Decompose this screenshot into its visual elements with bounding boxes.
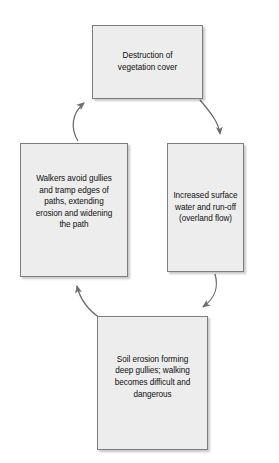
node-increased-surface-water-and-runoff: Increased surface water and run-off (ove… [167, 143, 244, 272]
node-label: Soil erosion forming deep gullies; walki… [110, 354, 196, 401]
node-label: Walkers avoid gullies and tramp edges of… [31, 173, 117, 231]
node-soil-erosion-forming-deep-gullies: Soil erosion forming deep gullies; walki… [97, 316, 208, 450]
node-label: Increased surface water and run-off (ove… [168, 190, 242, 225]
flow-diagram: Destruction of vegetation cover Increase… [0, 0, 279, 463]
node-label: Destruction of vegetation cover [113, 50, 182, 73]
arrow-gullies-to-walkers [77, 286, 100, 318]
arrow-vegetation-to-runoff [200, 100, 220, 134]
arrow-walkers-to-vegetation [73, 103, 84, 141]
node-destruction-of-vegetation-cover: Destruction of vegetation cover [92, 25, 203, 99]
arrow-runoff-to-gullies [203, 274, 217, 307]
node-walkers-avoid-gullies: Walkers avoid gullies and tramp edges of… [20, 143, 128, 277]
